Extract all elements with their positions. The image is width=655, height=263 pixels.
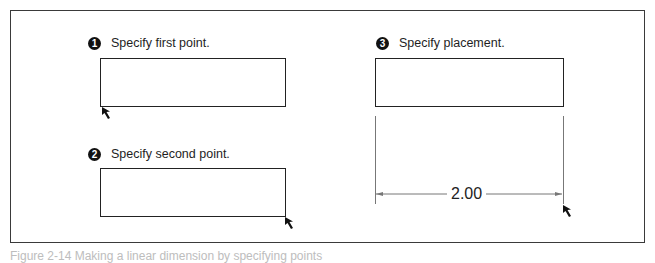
step-3-cursor-arrow-icon: [562, 204, 574, 218]
left-arrowhead-icon: [376, 192, 383, 196]
figure-caption: Figure 2-14 Making a linear dimension by…: [10, 249, 322, 263]
right-arrowhead-icon: [555, 192, 562, 196]
dimension-value: 2.00: [447, 185, 486, 203]
